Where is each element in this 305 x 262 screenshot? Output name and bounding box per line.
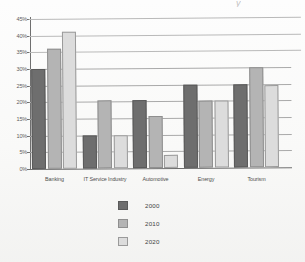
x-tick-label-banking: Banking xyxy=(45,176,64,182)
y-axis-tick-labels: 0%5%10%15%20%25%30%35%40%45% xyxy=(4,0,27,190)
y-tick-label-0: 0% xyxy=(19,166,27,172)
plot-area xyxy=(29,17,288,169)
bar-groups xyxy=(29,17,287,19)
legend-swatch-2010 xyxy=(118,219,128,228)
bar-2000-tourism[interactable] xyxy=(233,84,248,167)
y-tick-label-30: 30% xyxy=(17,66,27,72)
y-tick-label-10: 10% xyxy=(17,133,27,139)
legend-item[interactable]: 2010 xyxy=(118,214,228,232)
bar-2020-it-service-industry[interactable] xyxy=(113,135,127,168)
bar-2010-it-service-industry[interactable] xyxy=(97,100,112,168)
bar-2000-automotive[interactable] xyxy=(132,100,147,168)
bar-2010-tourism[interactable] xyxy=(249,67,264,167)
bar-group-tourism xyxy=(233,17,279,167)
bar-2000-banking[interactable] xyxy=(31,69,46,169)
y-tick-label-40: 40% xyxy=(17,33,27,39)
bar-2020-automotive[interactable] xyxy=(164,155,178,168)
legend-label-2010: 2010 xyxy=(145,220,160,227)
x-tick-label-tourism: Tourism xyxy=(247,176,265,182)
bar-2000-energy[interactable] xyxy=(183,84,198,167)
legend-swatch-2000 xyxy=(118,201,128,210)
legend-item[interactable]: 2000 xyxy=(118,196,228,214)
x-tick-label-automotive: Automotive xyxy=(143,176,169,182)
y-tick-label-45: 45% xyxy=(17,16,27,22)
y-tick-label-15: 15% xyxy=(17,116,27,122)
legend-label-2020: 2020 xyxy=(145,238,160,245)
bar-2020-energy[interactable] xyxy=(214,101,229,168)
x-tick-label-energy: Energy xyxy=(198,176,214,182)
bar-chart: 0%5%10%15%20%25%30%35%40%45% BankingIT S… xyxy=(0,0,305,190)
bar-group-banking xyxy=(31,19,77,169)
bar-2010-banking[interactable] xyxy=(47,49,62,169)
legend-swatch-2020 xyxy=(118,237,128,246)
bar-2010-automotive[interactable] xyxy=(148,116,162,168)
bar-2020-banking[interactable] xyxy=(62,32,77,169)
bar-group-it-service-industry xyxy=(81,18,127,168)
y-tick-label-20: 20% xyxy=(17,99,27,105)
legend-item[interactable]: 2020 xyxy=(118,232,228,250)
bar-2000-it-service-industry[interactable] xyxy=(82,135,96,168)
y-tick-label-5: 5% xyxy=(19,149,27,155)
bar-2020-tourism[interactable] xyxy=(264,85,279,167)
x-tick-label-it-service-industry: IT Service Industry xyxy=(84,176,127,182)
y-tick-label-25: 25% xyxy=(17,83,27,89)
chart-legend: 2000 2010 2020 xyxy=(118,196,228,250)
bar-group-energy xyxy=(182,17,228,167)
y-tick-label-35: 35% xyxy=(17,49,27,55)
bar-group-automotive xyxy=(132,18,178,168)
bar-2010-energy[interactable] xyxy=(198,101,213,168)
legend-label-2000: 2000 xyxy=(145,202,160,209)
